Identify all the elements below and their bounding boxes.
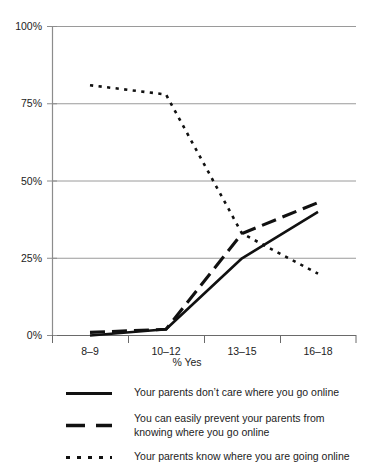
legend-item-parents-know: Your parents know where you are going on… [0, 450, 374, 464]
legend-label-easily-prevent-line1: You can easily prevent your parents from [124, 412, 324, 426]
y-tick-label-0: 0% [0, 329, 42, 341]
legend-label-parents-dont-care: Your parents don’t care where you go onl… [124, 386, 339, 400]
plot-area [0, 0, 374, 472]
series-line-easily-prevent [90, 203, 318, 333]
x-tick-marks [53, 335, 357, 343]
legend-item-parents-dont-care: Your parents don’t care where you go onl… [0, 386, 374, 400]
y-tick-label-100: 100% [0, 20, 42, 32]
legend-swatch-solid [66, 386, 124, 400]
series-line-parents-dont-care [90, 212, 318, 336]
y-tick-label-50: 50% [0, 175, 42, 187]
gridlines [52, 27, 356, 259]
legend-label-easily-prevent-line2: knowing where you go online [124, 426, 324, 440]
legend-swatch-dotted [66, 450, 124, 464]
x-axis-title: % Yes [0, 356, 374, 368]
y-tick-label-25: 25% [0, 252, 42, 264]
legend-label-easily-prevent-block: You can easily prevent your parents from… [124, 412, 324, 439]
legend-swatch-dashed [66, 418, 124, 432]
legend-item-easily-prevent: You can easily prevent your parents from… [0, 412, 374, 439]
series-line-parents-know [90, 85, 318, 274]
y-tick-label-75: 75% [0, 97, 42, 109]
legend-label-parents-know: Your parents know where you are going on… [124, 450, 350, 464]
line-chart: 100% 75% 50% 25% 0% 8–9 10–12 13–15 16–1… [0, 0, 374, 472]
